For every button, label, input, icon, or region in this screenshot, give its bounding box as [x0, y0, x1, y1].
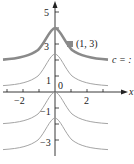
- curve-4: [3, 118, 108, 150]
- x-label-2: 2: [84, 95, 89, 106]
- y-label-5: 5: [44, 7, 49, 18]
- y-label-1: 1: [46, 75, 51, 86]
- y-label-3: 3: [44, 41, 49, 52]
- y-label-m3: −3: [40, 137, 51, 148]
- point-label: (1, 3): [76, 38, 98, 50]
- x-label-m2: −2: [14, 95, 25, 106]
- x-axis-label: x: [128, 86, 134, 97]
- x-axis-arrow-icon: [121, 90, 128, 95]
- origin-label: 0: [58, 80, 63, 91]
- y-axis-arrow-icon: [53, 1, 58, 8]
- y-label-m1: −1: [40, 106, 51, 117]
- chart-svg: 5 3 1 −1 −3 0 −2 2 x (1, 3) c = :: [0, 0, 134, 164]
- point-marker: [67, 41, 73, 47]
- c-label: c = :: [112, 54, 132, 65]
